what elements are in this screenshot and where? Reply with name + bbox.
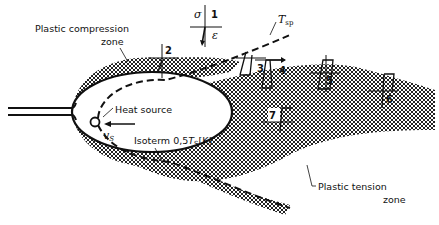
stress-strain-glyph-3: 3 [236,52,266,75]
svg-text:2: 2 [165,45,172,56]
svg-text:3: 3 [257,63,264,74]
tsp-label: Tsp [278,13,294,27]
plastic-tension-label-zone: zone [383,194,406,205]
stress-strain-glyph-1: σ 1 ε [190,5,222,47]
plastic-tension-label: Plastic tension [318,181,387,192]
svg-text:1: 1 [211,9,218,20]
plastic-compression-label: Plastic compression [35,23,129,34]
welding-stress-diagram: vS Heat source Isoterm 0,5TS[K] Plastic … [0,0,439,225]
svg-text:σ: σ [194,8,202,21]
svg-text:4: 4 [279,65,286,76]
heat-source-label: Heat source [115,104,172,115]
svg-text:5: 5 [326,75,333,86]
heat-source-icon [91,118,100,127]
svg-text:ε: ε [212,29,218,42]
svg-text:6: 6 [386,94,393,105]
plastic-compression-label-zone: zone [101,36,124,47]
svg-text:7: 7 [269,110,276,121]
